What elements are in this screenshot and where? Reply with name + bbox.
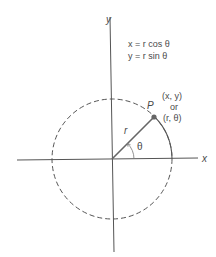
x-axis-label: x: [201, 153, 208, 164]
x-axis: [17, 158, 198, 160]
point-cartesian-label: (x, y): [162, 91, 182, 101]
point-or-label: or: [170, 102, 178, 112]
angle-label: θ: [137, 141, 143, 152]
radius-label: r: [124, 125, 128, 136]
polar-coordinates-diagram: y x x = r cos θ y = r sin θ P (x, y) or …: [0, 0, 216, 257]
y-axis: [110, 17, 114, 252]
angle-arc: [128, 144, 135, 160]
y-axis-label: y: [105, 14, 112, 25]
point-name-label: P: [147, 100, 154, 111]
point-polar-label: (r, θ): [163, 113, 182, 123]
equation-x: x = r cos θ: [128, 39, 170, 49]
equation-y: y = r sin θ: [128, 51, 167, 61]
point-p-marker: [151, 114, 156, 119]
